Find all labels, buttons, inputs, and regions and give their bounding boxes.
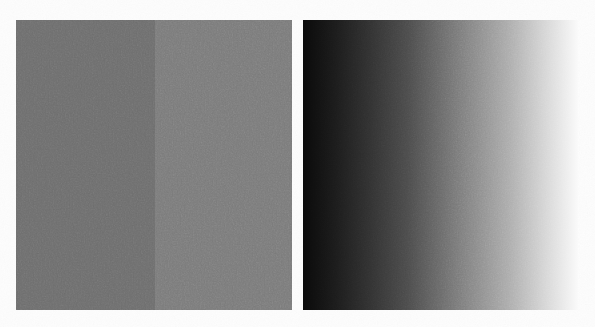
- continuous-luminance-ramp-panel: [303, 20, 578, 310]
- figure-canvas: [0, 0, 595, 327]
- luminance-ramp-fill: [303, 20, 578, 310]
- step-block-right: [155, 20, 292, 310]
- uniform-step-pattern-panel: [16, 20, 292, 310]
- step-block-left: [16, 20, 155, 310]
